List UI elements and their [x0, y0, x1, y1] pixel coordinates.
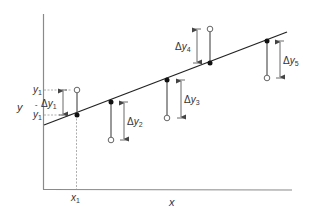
delta-y-label: Δy4	[175, 41, 191, 53]
x-axis-label: x	[168, 196, 175, 208]
y1-label: y1	[32, 84, 42, 96]
y1hat-accent: ˆ	[35, 103, 38, 112]
observed-point-icon	[74, 87, 80, 93]
residuals: Δy1Δy2Δy3Δy4Δy5	[41, 26, 299, 143]
fitted-point-icon	[75, 113, 80, 118]
x-axis	[43, 190, 292, 191]
residual-5: Δy5	[264, 39, 298, 81]
fitted-point-icon	[265, 39, 270, 44]
residual-diagram: Δy1Δy2Δy3Δy4Δy5 y x x1 y1 y1 ˆ	[0, 0, 314, 213]
fitted-point-icon	[208, 61, 213, 66]
observed-point-icon	[264, 75, 270, 81]
residual-3: Δy3	[164, 78, 199, 121]
y-axis-label: y	[16, 101, 24, 113]
delta-y-label: Δy1	[41, 98, 57, 110]
delta-y-label: Δy3	[184, 94, 200, 106]
fitted-point-icon	[165, 78, 170, 83]
delta-y-label: Δy2	[127, 116, 143, 128]
observed-point-icon	[207, 26, 213, 32]
observed-point-icon	[108, 137, 114, 143]
observed-point-icon	[164, 115, 170, 121]
residual-2: Δy2	[108, 100, 142, 143]
fitted-point-icon	[109, 100, 114, 105]
residual-4: Δy4	[175, 26, 213, 65]
delta-y-label: Δy5	[283, 55, 299, 67]
x1-label: x1	[70, 192, 80, 204]
